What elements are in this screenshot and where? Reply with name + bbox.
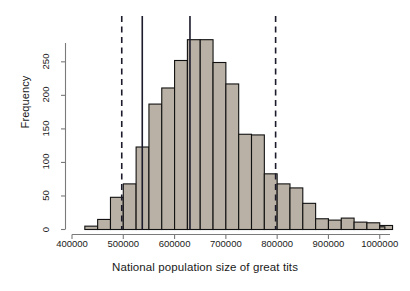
histogram-bar [200,40,213,230]
y-tick-marks [61,62,66,230]
histogram-bar [354,222,367,229]
histogram-bar [162,88,175,230]
histogram-bar [85,226,98,229]
histogram-bars [85,40,393,230]
histogram-bar [290,188,303,230]
histogram-bar [316,219,329,230]
histogram-bar [252,135,265,230]
histogram-bar [98,219,111,229]
histogram-figure: Frequency National population size of gr… [0,0,410,291]
histogram-bar [213,63,226,230]
histogram-bar [367,223,380,230]
histogram-bar [277,184,290,230]
y-axis [61,43,66,230]
histogram-bar [149,104,162,229]
y-tick-label: 150 [40,113,51,143]
histogram-bar [328,220,341,229]
histogram-bar [226,84,239,230]
y-axis-title: Frequency [19,57,31,147]
y-tick-label: 100 [40,147,51,177]
histogram-bar [123,184,136,230]
y-tick-label: 50 [40,180,51,210]
histogram-bar [175,60,188,229]
histogram-bar [110,197,123,229]
histogram-bar [341,218,354,229]
x-tick-label: 1000000 [345,238,410,249]
histogram-bar [380,227,385,230]
y-tick-label: 200 [40,80,51,110]
histogram-bar [239,134,252,229]
y-tick-label: 250 [40,46,51,76]
histogram-bar [303,203,316,229]
x-axis-title: National population size of great tits [0,261,410,273]
